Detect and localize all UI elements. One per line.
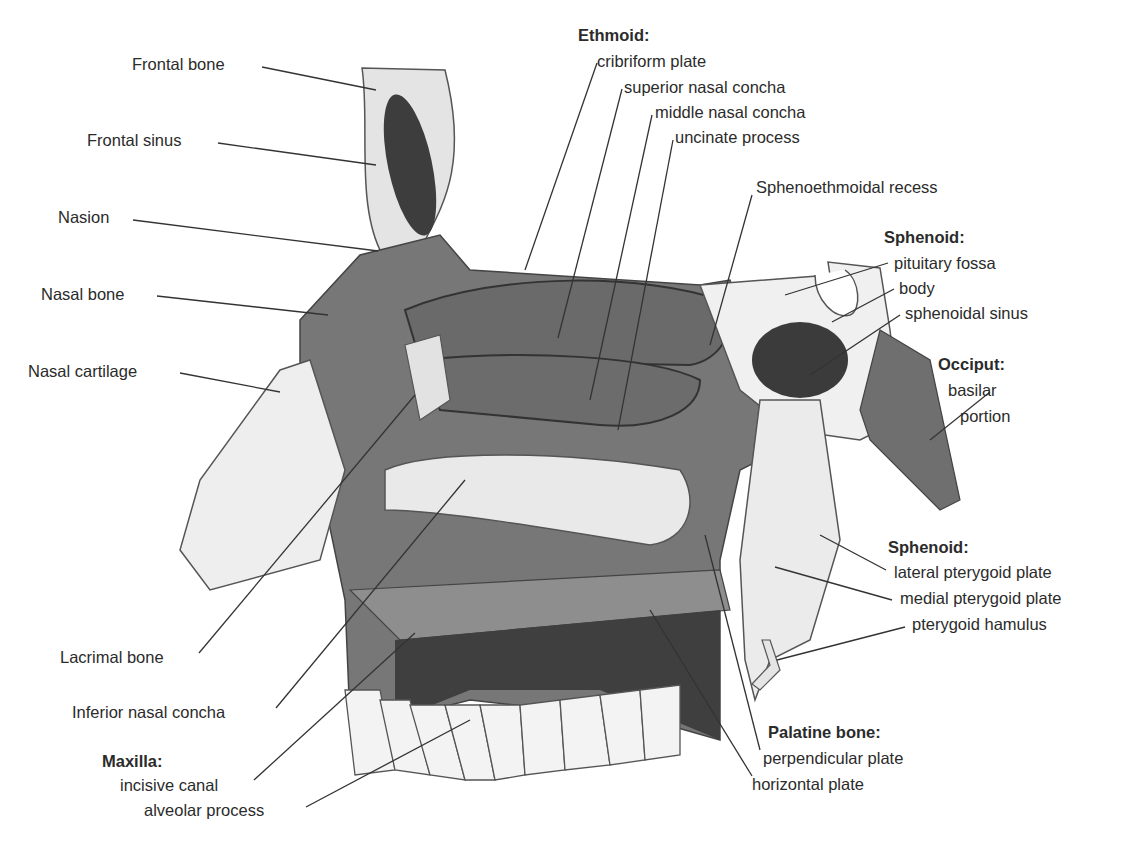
label-alveolar-process: alveolar process <box>144 801 264 820</box>
label-body: body <box>899 279 935 298</box>
label-basilar: basilar <box>948 381 997 400</box>
label-occiput-heading: Occiput: <box>938 355 1005 374</box>
label-superior-nasal-concha: superior nasal concha <box>624 78 785 97</box>
label-pterygoid-hamulus: pterygoid hamulus <box>912 615 1047 634</box>
label-sphenoidal-sinus: sphenoidal sinus <box>905 304 1028 323</box>
label-inferior-nasal-concha: Inferior nasal concha <box>72 703 225 722</box>
label-sphenoid-heading-bottom: Sphenoid: <box>888 538 969 557</box>
label-palatine-heading: Palatine bone: <box>768 723 881 742</box>
label-maxilla-heading: Maxilla: <box>102 752 163 771</box>
label-nasal-cartilage: Nasal cartilage <box>28 362 137 381</box>
label-portion: portion <box>960 407 1010 426</box>
label-sphenoethmoidal-recess: Sphenoethmoidal recess <box>756 178 938 197</box>
label-cribriform-plate: cribriform plate <box>597 52 706 71</box>
label-horizontal-plate: horizontal plate <box>752 775 864 794</box>
label-medial-pterygoid-plate: medial pterygoid plate <box>900 589 1061 608</box>
nasal-cartilage <box>180 360 345 590</box>
label-uncinate-process: uncinate process <box>675 128 800 147</box>
label-frontal-bone: Frontal bone <box>132 55 225 74</box>
label-perpendicular-plate: perpendicular plate <box>763 749 903 768</box>
label-frontal-sinus: Frontal sinus <box>87 131 181 150</box>
label-nasion: Nasion <box>58 208 109 227</box>
label-lateral-pterygoid-plate: lateral pterygoid plate <box>894 563 1052 582</box>
label-sphenoid-heading-top: Sphenoid: <box>884 228 965 247</box>
label-nasal-bone: Nasal bone <box>41 285 124 304</box>
pterygoid-plates <box>740 400 840 700</box>
label-lacrimal-bone: Lacrimal bone <box>60 648 164 667</box>
label-incisive-canal: incisive canal <box>120 776 218 795</box>
label-ethmoid-heading: Ethmoid: <box>578 26 650 45</box>
label-pituitary-fossa: pituitary fossa <box>894 254 996 273</box>
label-middle-nasal-concha: middle nasal concha <box>655 103 805 122</box>
